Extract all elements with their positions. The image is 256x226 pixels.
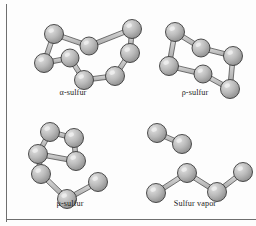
atom-group: [29, 123, 108, 209]
sulfur-atom: [166, 23, 185, 42]
sulfur-atom: [106, 67, 125, 86]
sulfur-atom: [75, 71, 94, 90]
sulfur-atom: [160, 57, 179, 76]
sulfur-atom: [65, 129, 84, 148]
panel-mu-sulfur: [22, 116, 132, 202]
sulfur-atom: [234, 163, 253, 182]
sulfur-allotropes-figure: α-sulfur ρ-sulfur μ-sulfur Sulfur vapor: [0, 0, 256, 226]
molecule-mu-sulfur: [22, 116, 132, 202]
sulfur-atom: [45, 25, 64, 44]
sulfur-atom: [173, 135, 192, 154]
atom-group: [147, 124, 253, 203]
sulfur-atom: [89, 173, 108, 192]
bond-group: [159, 133, 240, 192]
sulfur-atom: [121, 44, 140, 63]
sulfur-atom: [29, 145, 48, 164]
caption-sulfur-vapor: Sulfur vapor: [140, 199, 250, 208]
sulfur-atom: [67, 152, 86, 171]
atom-group: [35, 20, 142, 90]
figure-bottom-rule: [6, 219, 256, 220]
sulfur-atom: [80, 37, 98, 55]
sulfur-atom: [178, 164, 197, 183]
sulfur-atom: [192, 39, 210, 57]
caption-rho-sulfur: ρ-sulfur: [140, 88, 250, 97]
caption-mu-sulfur: μ-sulfur: [15, 199, 125, 208]
sulfur-atom: [35, 54, 54, 73]
sulfur-atom: [224, 47, 243, 66]
molecule-sulfur-vapor: [143, 116, 255, 202]
sulfur-atom: [41, 123, 60, 142]
sulfur-atom: [61, 49, 79, 67]
sulfur-atom: [194, 65, 212, 83]
caption-alpha-sulfur: α-sulfur: [18, 88, 128, 97]
figure-left-rule: [6, 4, 7, 222]
sulfur-atom: [123, 20, 142, 39]
sulfur-atom: [148, 124, 167, 143]
sulfur-atom: [32, 165, 51, 184]
panel-sulfur-vapor: [143, 116, 255, 202]
